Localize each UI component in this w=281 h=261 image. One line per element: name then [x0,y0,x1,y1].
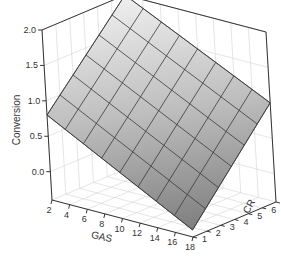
x-tick-label: 2 [46,205,51,215]
y-tick-label: 5 [257,211,262,221]
x-axis-label: GAS [90,229,113,244]
x-tick-label: 8 [99,219,104,229]
x-tick-label: 18 [185,242,195,252]
x-tick [86,209,87,213]
x-tick-label: 12 [132,228,142,238]
z-tick-label: 2.0 [23,25,36,35]
y-tick-label: 2 [216,228,221,238]
y-tick-label: 3 [230,222,235,232]
y-tick [193,237,197,238]
x-tick-label: 14 [150,233,160,243]
x-tick [51,200,52,204]
y-axis-label: CR [241,197,257,215]
x-tick [104,214,105,218]
x-tick [174,232,175,236]
z-tick-label: 0.0 [32,167,45,177]
response-surface [47,0,270,230]
y-tick [262,208,266,209]
y-tick-label: 6 [271,205,276,215]
x-tick-label: 16 [167,237,177,247]
x-tick [69,205,70,209]
x-tick [192,237,193,241]
y-tick-label: 4 [244,217,249,227]
z-tick-label: 1.0 [28,96,41,106]
y-tick [276,202,280,203]
x-tick [122,219,123,223]
x-tick-label: 10 [114,224,124,234]
y-tick-label: 1 [202,234,207,244]
y-tick [235,220,239,221]
y-tick [221,225,225,226]
box-edge [266,32,276,202]
x-tick-label: 4 [64,210,69,220]
surface-chart: 0.00.51.01.52.0246810121416181234567 Con… [0,0,281,261]
z-axis-label: Conversion [11,95,22,146]
y-tick [207,231,211,232]
x-tick-label: 6 [82,214,87,224]
x-tick [139,223,140,227]
chart-svg: 0.00.51.01.52.0246810121416181234567 Con… [0,0,281,261]
z-tick-label: 0.5 [30,131,43,141]
z-tick-label: 1.5 [26,60,39,70]
x-tick [157,228,158,232]
